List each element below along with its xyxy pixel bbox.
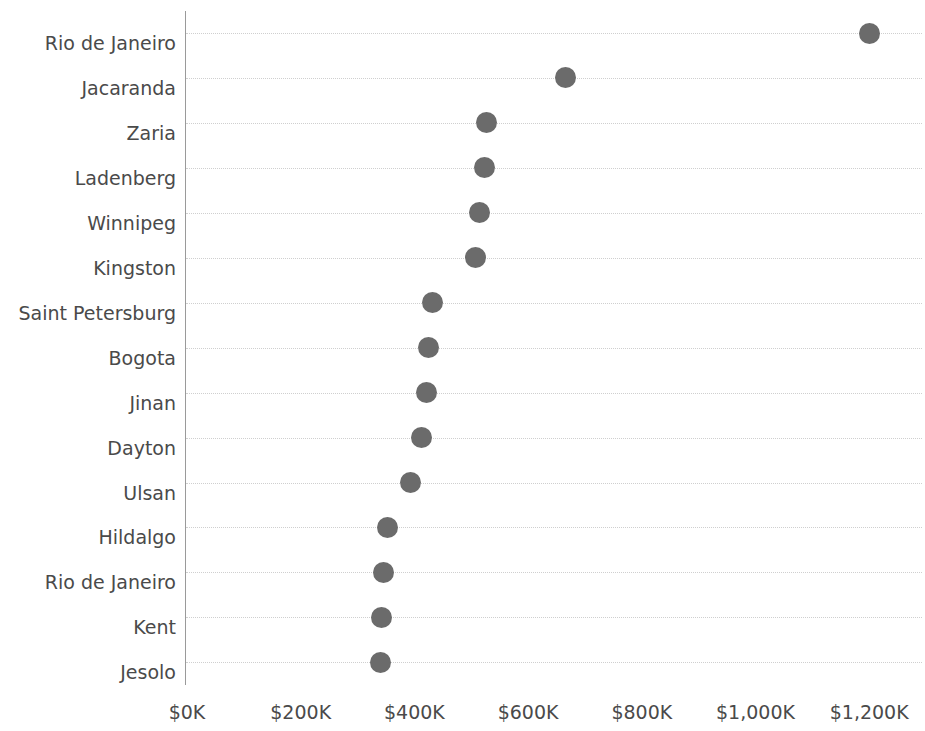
data-point[interactable] (469, 202, 490, 223)
data-point[interactable] (371, 607, 392, 628)
y-axis-tick-label: Hildalgo (98, 528, 176, 547)
data-point[interactable] (373, 562, 394, 583)
gridline (186, 572, 922, 573)
y-axis-tick-label: Winnipeg (87, 213, 176, 232)
gridline (186, 527, 922, 528)
y-axis-tick-label: Jesolo (120, 663, 176, 682)
x-axis-tick-label: $1,200K (830, 703, 909, 722)
x-axis-tick-label: $600K (498, 703, 559, 722)
y-axis-tick-label: Zaria (127, 123, 176, 142)
y-axis-tick-label: Bogota (109, 348, 176, 367)
y-axis-tick-label: Jinan (129, 393, 176, 412)
x-axis-tick-label: $0K (169, 703, 206, 722)
gridline (186, 348, 922, 349)
x-axis-tick-label: $800K (611, 703, 672, 722)
gridline (186, 483, 922, 484)
y-axis-tick-label: Ladenberg (75, 168, 176, 187)
data-point[interactable] (377, 517, 398, 538)
dot-plot-chart: Rio de JaneiroJacarandaZariaLadenbergWin… (0, 0, 925, 731)
gridline (186, 662, 922, 663)
y-axis-tick-label: Kent (133, 618, 176, 637)
y-axis-tick-label: Saint Petersburg (19, 303, 176, 322)
data-point[interactable] (474, 157, 495, 178)
x-axis-tick-labels: $0K$200K$400K$600K$800K$1,000K$1,200K (0, 703, 925, 731)
gridline (186, 33, 922, 34)
x-axis-tick-label: $200K (270, 703, 331, 722)
data-point[interactable] (411, 427, 432, 448)
data-point[interactable] (400, 472, 421, 493)
y-axis-tick-label: Dayton (107, 438, 176, 457)
gridline (186, 303, 922, 304)
data-point[interactable] (416, 382, 437, 403)
gridline (186, 617, 922, 618)
y-axis-tick-label: Rio de Janeiro (45, 34, 176, 53)
data-point[interactable] (370, 652, 391, 673)
y-axis-tick-label: Jacaranda (81, 78, 176, 97)
y-axis-tick-label: Ulsan (123, 483, 176, 502)
data-point[interactable] (418, 337, 439, 358)
x-axis-tick-label: $400K (384, 703, 445, 722)
x-axis-tick-label: $1,000K (716, 703, 795, 722)
y-axis-tick-labels: Rio de JaneiroJacarandaZariaLadenbergWin… (0, 10, 176, 686)
gridline (186, 78, 922, 79)
gridline (186, 258, 922, 259)
data-point[interactable] (859, 23, 880, 44)
data-point[interactable] (465, 247, 486, 268)
data-point[interactable] (422, 292, 443, 313)
data-point[interactable] (555, 67, 576, 88)
y-axis-tick-label: Kingston (93, 258, 176, 277)
gridline (186, 438, 922, 439)
gridline (186, 168, 922, 169)
gridline (186, 123, 922, 124)
gridline (186, 393, 922, 394)
data-point[interactable] (476, 112, 497, 133)
gridline (186, 213, 922, 214)
y-axis-tick-label: Rio de Janeiro (45, 573, 176, 592)
plot-area (186, 10, 922, 686)
